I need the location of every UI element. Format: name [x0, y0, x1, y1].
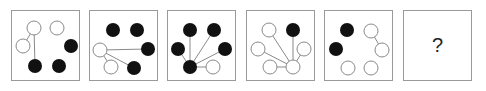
filled-circle-icon: [286, 23, 300, 37]
filled-circle-icon: [64, 39, 78, 53]
panel-1-figure: [12, 11, 81, 82]
filled-circle-icon: [52, 59, 66, 73]
panel-4-figure: [247, 11, 316, 82]
open-circle-icon: [50, 21, 64, 35]
open-circle-icon: [27, 21, 41, 35]
figure-reasoning-puzzle: ?: [0, 0, 486, 91]
open-circle-icon: [251, 42, 265, 56]
open-circle-icon: [286, 60, 300, 74]
filled-circle-icon: [183, 60, 197, 74]
panel-3: [167, 10, 236, 81]
panel-6-answer: ?: [403, 10, 472, 81]
filled-circle-icon: [130, 23, 144, 37]
panel-2-figure: [90, 11, 159, 82]
open-circle-icon: [364, 61, 378, 75]
panel-5-figure: [325, 11, 394, 82]
panel-1: [11, 10, 80, 81]
filled-circle-icon: [340, 23, 354, 37]
panel-5: [324, 10, 393, 81]
filled-circle-icon: [141, 42, 155, 56]
open-circle-icon: [375, 43, 389, 57]
question-mark: ?: [404, 11, 471, 80]
panel-4: [246, 10, 315, 81]
filled-circle-icon: [106, 23, 120, 37]
open-circle-icon: [263, 60, 277, 74]
filled-circle-icon: [127, 61, 141, 75]
filled-circle-icon: [183, 23, 197, 37]
filled-circle-icon: [171, 42, 185, 56]
open-circle-icon: [364, 24, 378, 38]
filled-circle-icon: [207, 23, 221, 37]
open-circle-icon: [16, 39, 30, 53]
open-circle-icon: [93, 43, 107, 57]
panel-2: [89, 10, 158, 81]
open-circle-icon: [262, 23, 276, 37]
filled-circle-icon: [28, 59, 42, 73]
filled-circle-icon: [218, 42, 232, 56]
filled-circle-icon: [329, 42, 343, 56]
panel-3-figure: [168, 11, 237, 82]
open-circle-icon: [341, 61, 355, 75]
open-circle-icon: [104, 60, 118, 74]
open-circle-icon: [297, 42, 311, 56]
open-circle-icon: [206, 60, 220, 74]
